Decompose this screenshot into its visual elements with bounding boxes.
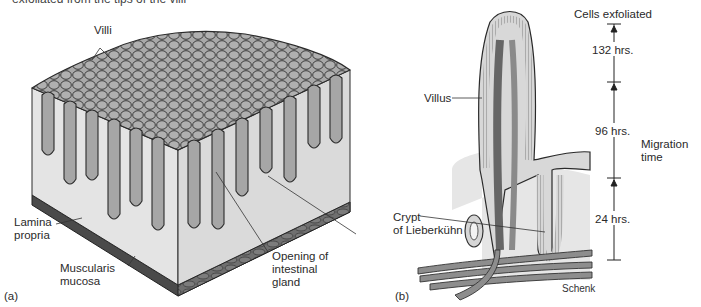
segment-96-hrs: 96 hrs. [595,125,630,138]
segment-24-hrs: 24 hrs. [595,213,630,226]
label-villus: Villus [424,92,451,105]
panel-a-label: (a) [4,290,18,303]
label-cells-exfoliated: Cells exfoliated [574,8,652,21]
label-crypt-of-lieberkuhn: Crypt of Lieberkühn [393,211,463,237]
segment-132-hrs: 132 hrs. [592,44,634,57]
label-muscularis-mucosa: Muscularis mucosa [60,262,115,288]
label-villi: Villi [94,24,112,37]
panel-b-label: (b) [395,290,409,303]
label-opening-intestinal-gland: Opening of intestinal gland [272,250,328,289]
label-lamina-propria: Lamina propria [14,216,52,242]
label-migration-time: Migration time [641,138,688,164]
panel-b-villus [418,12,592,301]
artist-credit: Schenk [562,282,595,295]
